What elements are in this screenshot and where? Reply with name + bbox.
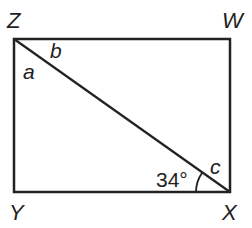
vertex-label-w: W xyxy=(222,8,245,33)
vertex-label-z: Z xyxy=(6,8,22,33)
angle-label-c: c xyxy=(210,155,221,178)
vertex-label-x: X xyxy=(221,200,238,225)
angle-label-b: b xyxy=(50,39,62,62)
angle-label-a: a xyxy=(23,60,35,83)
angle-label-34-degrees: 34° xyxy=(156,168,188,191)
diagonal-zx xyxy=(14,39,230,192)
rectangle-diagram: Z W X Y b a c 34° xyxy=(0,0,252,228)
angle-arc-34 xyxy=(196,172,202,192)
vertex-label-y: Y xyxy=(9,200,25,225)
